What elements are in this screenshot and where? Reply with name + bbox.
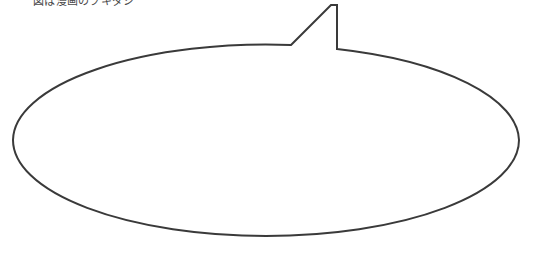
drawing-canvas: 図は漫画のフキダシ: [0, 0, 534, 255]
speech-balloon-path: [13, 5, 519, 236]
speech-balloon-figure: [0, 0, 534, 255]
speech-balloon-outline: [13, 5, 519, 236]
